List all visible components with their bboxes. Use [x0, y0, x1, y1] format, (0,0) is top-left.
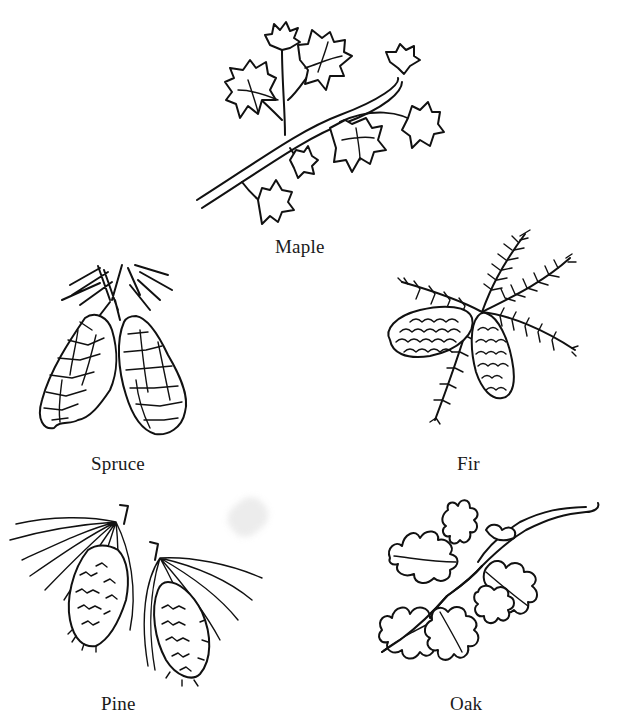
oak-panel: Oak [0, 0, 619, 723]
oak-caption: Oak [450, 693, 482, 715]
oak-illustration [0, 0, 619, 723]
